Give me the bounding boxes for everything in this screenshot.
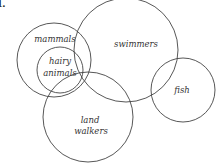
figure-number: 1. [0,0,6,9]
land-walkers-label-line1: land [81,115,100,125]
fish-label: fish [173,85,190,95]
swimmers-label: swimmers [114,39,159,49]
land-walkers-label-line2: walkers [74,126,108,136]
venn-diagram: 1. mammals hairy animals swimmers land w… [0,0,216,166]
mammals-label: mammals [34,34,76,44]
hairy-animals-label-line2: animals [43,68,77,78]
hairy-animals-label-line1: hairy [49,56,71,66]
